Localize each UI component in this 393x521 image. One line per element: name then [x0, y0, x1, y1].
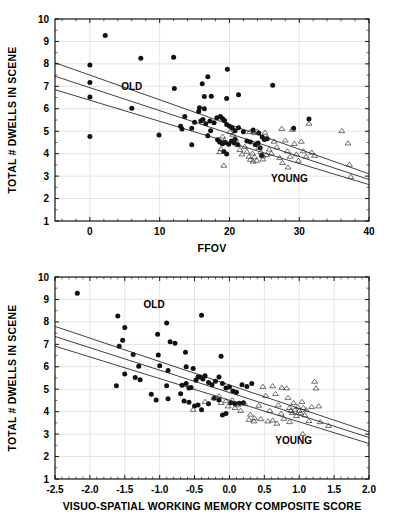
- data-point-old: [136, 364, 141, 369]
- data-point-young: [339, 128, 345, 132]
- data-point-old: [115, 314, 120, 319]
- data-point-old: [249, 381, 254, 386]
- y-tick-label: 3: [43, 171, 49, 182]
- data-point-old: [103, 33, 108, 38]
- figure-container: 12345678910010203040OLDYOUNGFFOVTOTAL # …: [0, 0, 393, 521]
- data-point-old: [157, 363, 162, 368]
- regression-line-lower-band: [55, 90, 369, 185]
- data-point-old: [154, 397, 159, 402]
- data-point-young: [299, 399, 305, 403]
- data-point-old: [138, 56, 143, 61]
- data-point-old: [213, 379, 218, 384]
- x-tick-label: -2.0: [81, 484, 99, 495]
- data-point-old: [244, 384, 249, 389]
- data-point-young: [303, 154, 309, 158]
- data-point-old: [200, 81, 205, 86]
- chart-panel-bottom: 12345678910-2.5-2.0-1.5-1.0-0.50.00.51.0…: [0, 260, 393, 521]
- regression-line-upper-band: [55, 326, 369, 431]
- data-point-old: [193, 378, 198, 383]
- y-tick-label: 9: [43, 294, 49, 305]
- data-point-old: [179, 383, 184, 388]
- y-tick-label: 3: [43, 429, 49, 440]
- data-point-old: [291, 126, 296, 131]
- data-point-old: [182, 399, 187, 404]
- data-point-old: [192, 120, 197, 125]
- data-point-old: [203, 121, 208, 126]
- data-point-young: [291, 141, 297, 145]
- data-point-old: [189, 126, 194, 131]
- data-point-old: [184, 364, 189, 369]
- data-point-young: [309, 404, 315, 408]
- data-point-young: [270, 418, 276, 422]
- data-point-old: [216, 374, 221, 379]
- series-old: [87, 33, 311, 158]
- data-point-young: [312, 379, 318, 383]
- x-tick-label: -2.5: [46, 484, 64, 495]
- x-tick-label: 30: [294, 226, 306, 237]
- data-point-old: [199, 407, 204, 412]
- data-point-young: [272, 391, 278, 395]
- data-point-young: [287, 154, 293, 158]
- x-tick-label: 1.5: [327, 484, 341, 495]
- data-point-young: [275, 403, 281, 407]
- y-axis-title: TOTAL # DWELLS IN SCENE: [6, 305, 18, 452]
- y-tick-label: 7: [43, 339, 49, 350]
- data-point-young: [221, 163, 227, 167]
- data-point-old: [202, 106, 207, 111]
- y-tick-label: 4: [43, 148, 49, 159]
- x-tick-label: 1.0: [292, 484, 306, 495]
- data-points: [87, 33, 353, 179]
- data-point-old: [164, 321, 169, 326]
- data-point-young: [316, 404, 322, 408]
- data-point-old: [270, 83, 275, 88]
- data-point-old: [208, 128, 213, 133]
- plot-frame: [55, 277, 369, 479]
- y-tick-label: 2: [43, 193, 49, 204]
- x-tick-label: 0.0: [222, 484, 236, 495]
- data-point-old: [236, 125, 241, 130]
- data-point-old: [182, 114, 187, 119]
- x-axis-title: FFOV: [198, 242, 227, 254]
- chart-panel-top: 12345678910010203040OLDYOUNGFFOVTOTAL # …: [0, 0, 393, 260]
- x-tick-label: 20: [224, 226, 236, 237]
- data-point-young: [270, 384, 276, 388]
- data-point-young: [282, 138, 288, 142]
- x-axis-title: VISUO-SPATIAL WORKING MEMORY COMPOSITE S…: [63, 500, 362, 512]
- data-point-old: [205, 133, 210, 138]
- data-point-old: [155, 332, 160, 337]
- data-point-old: [87, 95, 92, 100]
- group-label-young: YOUNG: [271, 173, 308, 184]
- data-point-old: [173, 341, 178, 346]
- data-point-old: [203, 373, 208, 378]
- scatter-plot-vswm: 12345678910-2.5-2.0-1.5-1.0-0.50.00.51.0…: [0, 260, 393, 521]
- data-point-old: [191, 366, 196, 371]
- data-point-old: [75, 291, 80, 296]
- data-point-old: [122, 325, 127, 330]
- data-point-old: [156, 133, 161, 138]
- gridlines: [55, 277, 369, 479]
- y-tick-label: 9: [43, 36, 49, 47]
- data-point-old: [149, 392, 154, 397]
- data-point-old: [202, 94, 207, 99]
- y-tick-label: 6: [43, 361, 49, 372]
- data-point-old: [189, 142, 194, 147]
- data-point-old: [241, 400, 246, 405]
- data-point-young: [244, 149, 250, 153]
- group-label-old: OLD: [121, 81, 142, 92]
- group-label-young: YOUNG: [275, 435, 312, 446]
- data-point-young: [258, 417, 264, 421]
- data-point-old: [196, 109, 201, 114]
- y-tick-label: 5: [43, 384, 49, 395]
- data-point-old: [186, 386, 191, 391]
- data-point-young: [285, 165, 291, 169]
- data-point-old: [172, 86, 177, 91]
- x-tick-label: 2.0: [362, 484, 376, 495]
- data-point-old: [171, 55, 176, 60]
- data-point-old: [87, 80, 92, 85]
- regression-line-upper-band: [55, 63, 369, 174]
- data-point-old: [117, 344, 122, 349]
- data-point-young: [306, 121, 312, 125]
- data-point-old: [236, 92, 241, 97]
- data-point-old: [122, 371, 127, 376]
- data-point-young: [246, 417, 252, 421]
